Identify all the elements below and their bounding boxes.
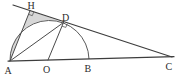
label-B: B [85, 63, 92, 74]
label-D: D [62, 12, 69, 23]
geometry-diagram-svg: A O B C D H [0, 0, 180, 81]
tangent-line-HDC [13, 5, 172, 57]
geometry-figure: A O B C D H [0, 0, 180, 81]
baseline-AC [8, 57, 174, 61]
label-H: H [28, 0, 35, 11]
label-C: C [166, 61, 173, 72]
label-O: O [43, 64, 50, 75]
label-A: A [5, 65, 13, 76]
